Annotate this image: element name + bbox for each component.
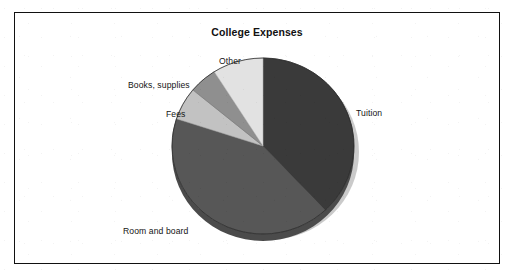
- pie-chart-svg: [15, 13, 501, 265]
- pie-label-room-and-board: Room and board: [123, 226, 188, 236]
- pie-label-fees: Fees: [166, 109, 186, 119]
- pie-slices: [172, 58, 354, 234]
- pie-label-books-supplies: Books, supplies: [128, 80, 190, 90]
- pie-label-tuition: Tuition: [356, 108, 382, 118]
- pie-label-other: Other: [219, 56, 241, 66]
- pie-plot-area: Tuition Room and board Fees Books, suppl…: [15, 13, 501, 265]
- chart-frame: College Expenses: [14, 12, 500, 264]
